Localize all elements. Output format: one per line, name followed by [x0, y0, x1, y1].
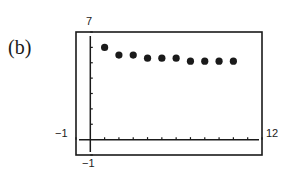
- data-point: [158, 55, 165, 62]
- data-point: [187, 58, 194, 65]
- data-point: [130, 51, 137, 58]
- data-point: [144, 55, 151, 62]
- data-point: [230, 58, 237, 65]
- data-point: [215, 58, 222, 65]
- scatter-plot: [0, 0, 293, 173]
- data-point: [201, 58, 208, 65]
- data-point: [101, 44, 108, 51]
- data-point: [115, 51, 122, 58]
- data-point: [173, 55, 180, 62]
